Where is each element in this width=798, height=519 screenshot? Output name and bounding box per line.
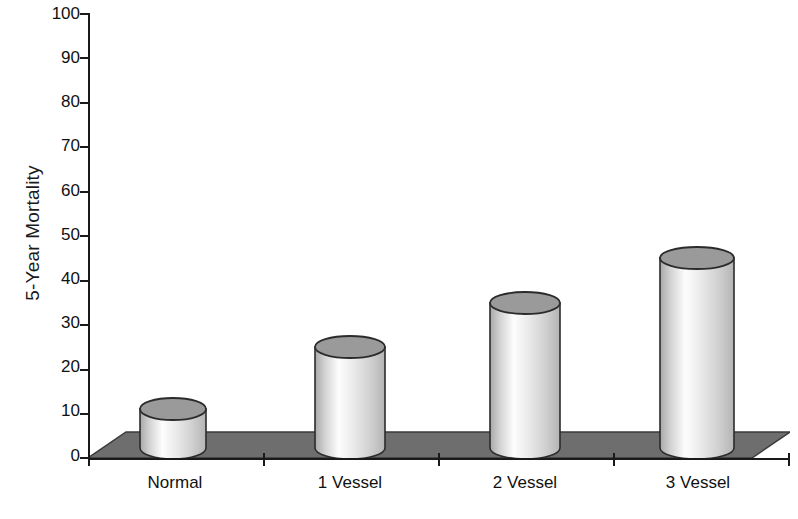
y-axis-line: [88, 13, 90, 460]
bar-normal[interactable]: [138, 396, 208, 462]
y-tick-label-40: 40: [38, 270, 80, 287]
x-tick-label-3-vessel: 3 Vessel: [633, 473, 763, 493]
y-axis-tick-group: 100 90 80 70 60 50 40 30 20 10 0: [18, 0, 80, 519]
y-tick-label-100: 100: [38, 5, 80, 22]
x-tick-label-normal: Normal: [110, 473, 240, 493]
y-tick-label-50: 50: [38, 226, 80, 243]
y-tick-label-80: 80: [38, 93, 80, 110]
x-tick-label-1-vessel: 1 Vessel: [285, 473, 415, 493]
x-tick-mark-2: [438, 453, 440, 466]
y-tick-label-60: 60: [38, 182, 80, 199]
bar-3-vessel[interactable]: [658, 245, 736, 462]
bar-1-vessel[interactable]: [313, 334, 387, 462]
bar-2-vessel[interactable]: [488, 290, 562, 462]
y-tick-label-90: 90: [38, 49, 80, 66]
x-tick-mark-4: [788, 453, 790, 466]
y-tick-label-70: 70: [38, 137, 80, 154]
y-tick-label-10: 10: [38, 402, 80, 419]
y-tick-label-0: 0: [38, 447, 80, 464]
chart-canvas: 5-Year Mortality 100 90 80 70 60 50 40 3…: [0, 0, 798, 519]
x-tick-mark-1: [263, 453, 265, 466]
x-tick-label-2-vessel: 2 Vessel: [460, 473, 590, 493]
y-tick-label-20: 20: [38, 358, 80, 375]
y-tick-label-30: 30: [38, 314, 80, 331]
x-tick-mark-3: [613, 453, 615, 466]
x-tick-mark-0: [88, 453, 90, 466]
